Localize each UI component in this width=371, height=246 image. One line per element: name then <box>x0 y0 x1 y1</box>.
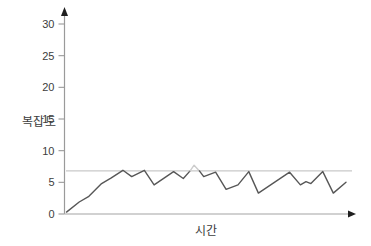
y-tick-label: 5 <box>48 176 54 188</box>
x-axis-title: 시간 <box>176 221 236 238</box>
complexity-line-peak-segment <box>190 165 199 171</box>
y-tick-label: 20 <box>42 81 54 93</box>
y-tick-label: 0 <box>48 208 54 220</box>
complexity-time-chart: 051015202530 복잡도 시간 <box>0 0 371 246</box>
y-axis-arrow-icon <box>61 7 68 16</box>
x-axis-arrow-icon <box>348 211 356 218</box>
complexity-line-segment <box>199 171 346 193</box>
y-axis-title: 복잡도 <box>18 112 60 129</box>
complexity-line-segment <box>67 170 191 212</box>
y-tick-label: 30 <box>42 18 54 30</box>
y-tick-label: 25 <box>42 50 54 62</box>
y-tick-label: 10 <box>42 145 54 157</box>
